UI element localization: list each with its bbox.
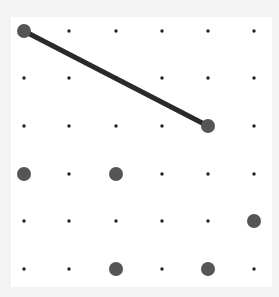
- grid-dot[interactable]: [160, 267, 163, 270]
- grid-dot[interactable]: [160, 219, 163, 222]
- grid-dot-selected[interactable]: [109, 167, 123, 181]
- dot-grid-canvas[interactable]: [11, 17, 272, 287]
- grid-dot[interactable]: [206, 219, 209, 222]
- grid-dot[interactable]: [114, 76, 117, 79]
- grid-dot[interactable]: [252, 124, 255, 127]
- grid-dot[interactable]: [22, 124, 25, 127]
- grid-dot[interactable]: [22, 219, 25, 222]
- grid-dot[interactable]: [252, 172, 255, 175]
- grid-dot-selected[interactable]: [201, 119, 215, 133]
- grid-dot[interactable]: [206, 172, 209, 175]
- grid-dot-selected[interactable]: [17, 167, 31, 181]
- grid-dot[interactable]: [206, 29, 209, 32]
- grid-dot[interactable]: [67, 76, 70, 79]
- grid-dot[interactable]: [67, 267, 70, 270]
- grid-dot[interactable]: [67, 29, 70, 32]
- grid-dot[interactable]: [160, 124, 163, 127]
- grid-dot[interactable]: [22, 76, 25, 79]
- grid-dot[interactable]: [114, 219, 117, 222]
- grid-dot[interactable]: [206, 76, 209, 79]
- grid-dot[interactable]: [252, 76, 255, 79]
- grid-dot[interactable]: [252, 29, 255, 32]
- grid-dot[interactable]: [114, 124, 117, 127]
- grid-dot[interactable]: [22, 267, 25, 270]
- grid-dot[interactable]: [67, 124, 70, 127]
- grid-dot-selected[interactable]: [247, 214, 261, 228]
- grid-dot-selected[interactable]: [201, 262, 215, 276]
- grid-dot[interactable]: [160, 172, 163, 175]
- grid-dot[interactable]: [160, 29, 163, 32]
- grid-dot[interactable]: [160, 76, 163, 79]
- dot-grid-board[interactable]: [11, 17, 272, 287]
- grid-dot-selected[interactable]: [17, 24, 31, 38]
- grid-dot-selected[interactable]: [109, 262, 123, 276]
- grid-dot[interactable]: [67, 219, 70, 222]
- grid-dot[interactable]: [114, 29, 117, 32]
- grid-dot[interactable]: [252, 267, 255, 270]
- grid-dot[interactable]: [67, 172, 70, 175]
